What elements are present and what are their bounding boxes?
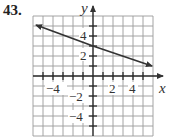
x-tick-2: 2: [109, 81, 116, 96]
y-tick-neg2: −2: [69, 89, 83, 104]
x-tick-4: 4: [129, 81, 136, 96]
y-tick-2: 2: [80, 48, 87, 63]
axes: [33, 6, 163, 136]
coordinate-plane: −4 2 4 4 2 −2 −4 x y: [0, 0, 171, 138]
y-axis-label: y: [79, 0, 88, 16]
x-tick-neg4: −4: [46, 81, 60, 96]
y-tick-neg4: −4: [69, 109, 83, 124]
x-axis-label: x: [158, 80, 166, 96]
